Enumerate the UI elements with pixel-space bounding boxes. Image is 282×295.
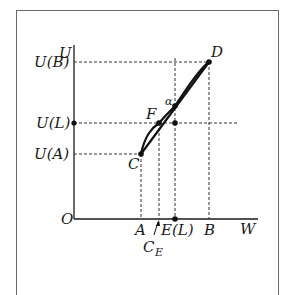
d-label: D [210,43,223,61]
chord-midpoint [172,120,178,126]
ul-label: U(L) [36,114,70,132]
ce-arrowhead [156,220,160,226]
point-f [156,120,162,126]
c-label: C [128,155,140,173]
ce-label: C [143,238,155,256]
el-label: E(L) [160,221,194,239]
f-label: F [145,105,157,123]
ce-subscript: E [154,246,163,259]
alpha-label: α [165,95,173,108]
a-label: A [133,221,146,239]
ub-label: U(B) [34,53,70,71]
x-axis-label: W [240,220,257,238]
ul-point [71,120,76,125]
ua-label: U(A) [34,145,69,163]
point-alpha [172,103,178,109]
b-label: B [203,221,215,239]
origin-label: O [61,210,73,228]
